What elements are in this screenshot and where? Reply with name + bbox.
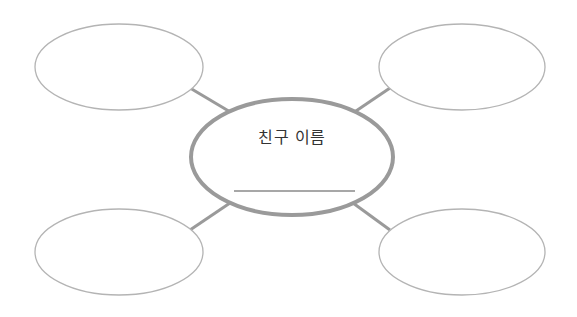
branch-bubble-top-right[interactable] [379, 24, 545, 110]
connector-top-right [353, 88, 390, 113]
center-bubble[interactable] [191, 99, 393, 215]
center-label: 친구 이름 [192, 124, 392, 148]
connector-top-left [190, 88, 232, 113]
connector-bottom-right [353, 203, 390, 230]
branch-bubble-bottom-right[interactable] [379, 209, 545, 295]
branch-bubble-bottom-left[interactable] [35, 209, 203, 295]
branch-bubble-top-left[interactable] [35, 24, 203, 110]
mind-map-canvas [0, 0, 577, 317]
connector-bottom-left [190, 203, 230, 230]
